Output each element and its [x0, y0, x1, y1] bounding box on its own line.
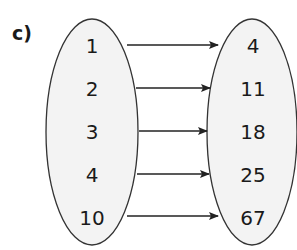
range-value: 11 [240, 77, 265, 101]
domain-value: 1 [86, 34, 99, 58]
domain-value: 4 [86, 163, 99, 187]
range-value: 4 [247, 34, 260, 58]
mapping-diagram: c) 1 2 3 4 10 4 11 18 25 67 [0, 0, 297, 250]
domain-value: 3 [86, 120, 99, 144]
part-label: c) [12, 22, 32, 44]
range-value: 18 [240, 120, 265, 144]
domain-value: 10 [79, 206, 104, 230]
domain-value: 2 [86, 77, 99, 101]
range-value: 25 [240, 163, 265, 187]
range-value: 67 [240, 206, 265, 230]
